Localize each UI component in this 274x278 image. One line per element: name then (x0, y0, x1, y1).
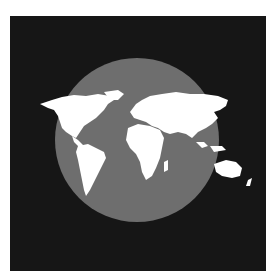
world-map-image (0, 0, 274, 278)
